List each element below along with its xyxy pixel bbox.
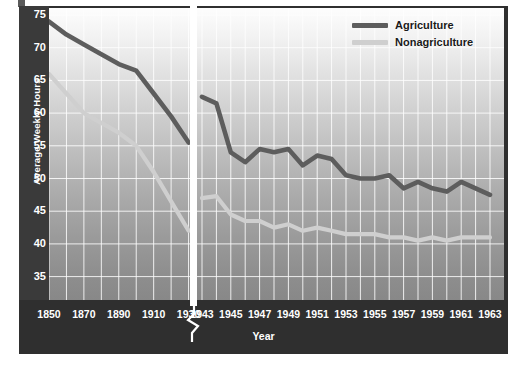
legend-item-nonagriculture: Nonagriculture [352,35,473,49]
axis-break-slash-icon [185,300,203,342]
x-tick-1955: 1955 [363,309,386,320]
x-tick-1910: 1910 [142,309,165,320]
y-tick-75: 75 [34,9,46,20]
y-tick-35: 35 [34,270,46,281]
x-tick-1850: 1850 [37,309,60,320]
y-tick-45: 45 [34,205,46,216]
x-tick-1953: 1953 [334,309,357,320]
axis-break-band [190,6,197,306]
y-tick-55: 55 [34,139,46,150]
y-tick-60: 60 [34,107,46,118]
x-tick-1959: 1959 [421,309,444,320]
x-tick-1949: 1949 [277,309,300,320]
x-tick-1890: 1890 [107,309,130,320]
plot-panel-historical [49,8,190,300]
chart-figure: Average Weekly Hours 757065605550454035 … [0,0,519,368]
x-tick-1870: 1870 [72,309,95,320]
x-tick-1963: 1963 [478,309,501,320]
legend-label-agriculture: Agriculture [395,19,454,31]
x-tick-1957: 1957 [392,309,415,320]
legend-label-nonagriculture: Nonagriculture [395,36,473,48]
y-tick-65: 65 [34,74,46,85]
legend-item-agriculture: Agriculture [352,18,473,32]
x-tick-1945: 1945 [219,309,242,320]
x-axis-title: Year [19,330,508,342]
y-axis-title: Average Weekly Hours [31,42,42,222]
x-tick-1947: 1947 [248,309,271,320]
y-axis: Average Weekly Hours 757065605550454035 [19,6,49,300]
legend-swatch-nonagriculture [352,40,388,45]
x-tick-1961: 1961 [450,309,473,320]
x-tick-1951: 1951 [306,309,329,320]
legend-swatch-agriculture [352,23,388,28]
chart-legend: Agriculture Nonagriculture [352,18,473,52]
y-tick-70: 70 [34,41,46,52]
y-tick-40: 40 [34,237,46,248]
x-axis: 1850187018901910193019431945194719491951… [19,300,508,354]
y-tick-50: 50 [34,172,46,183]
